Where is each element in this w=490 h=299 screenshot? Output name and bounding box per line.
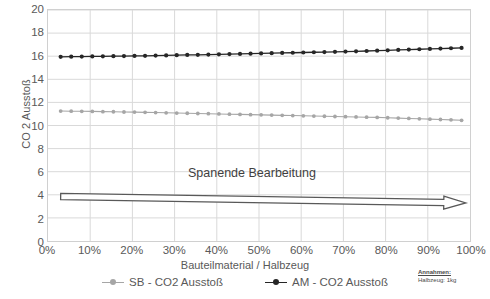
series-marker [90, 110, 94, 114]
series-marker [344, 115, 348, 119]
series-marker [417, 117, 421, 121]
co2-emissions-line-chart: CO 2 Ausstoß 02468101214161820 Spanende … [0, 0, 490, 299]
series-marker [428, 47, 432, 51]
series-marker [80, 109, 84, 113]
legend-label: AM - CO2 Ausstoß [292, 276, 388, 288]
x-tick-label: 30% [163, 244, 186, 256]
series-marker [69, 55, 73, 59]
y-tick-label: 12 [14, 96, 44, 108]
series-marker [438, 46, 442, 50]
series-marker [396, 116, 400, 120]
series-marker [154, 54, 158, 58]
series-sb [59, 109, 464, 122]
series-marker [59, 55, 63, 59]
series-marker [217, 52, 221, 56]
x-tick-label: 50% [247, 244, 270, 256]
series-marker [386, 116, 390, 120]
series-marker [111, 54, 115, 58]
y-tick-label: 16 [14, 50, 44, 62]
y-tick-label: 14 [14, 73, 44, 85]
series-marker [291, 114, 295, 118]
series-marker [301, 114, 305, 118]
series-marker [175, 111, 179, 115]
series-marker [375, 49, 379, 53]
series-marker [354, 49, 358, 53]
y-tick-label: 8 [14, 143, 44, 155]
y-tick-label: 6 [14, 166, 44, 178]
series-marker [386, 48, 390, 52]
series-marker [143, 110, 147, 114]
y-tick-label: 2 [14, 213, 44, 225]
series-marker [291, 51, 295, 55]
x-tick-label: 0% [39, 244, 56, 256]
series-marker [343, 49, 347, 53]
series-marker [154, 111, 158, 115]
legend-item-am[interactable]: AM - CO2 Ausstoß [265, 276, 388, 288]
y-tick-label: 18 [14, 26, 44, 38]
series-marker [365, 49, 369, 53]
series-marker [101, 54, 105, 58]
series-marker [196, 112, 200, 116]
series-marker [248, 52, 252, 56]
series-marker [439, 118, 443, 122]
series-marker [228, 112, 232, 116]
series-marker [396, 48, 400, 52]
series-marker [133, 110, 137, 114]
series-marker [322, 50, 326, 54]
series-marker [238, 113, 242, 117]
series-marker [280, 51, 284, 55]
x-tick-label: 60% [290, 244, 313, 256]
series-marker [217, 112, 221, 116]
series-marker [227, 52, 231, 56]
series-marker [122, 54, 126, 58]
plot-canvas [48, 10, 470, 241]
series-marker [270, 113, 274, 117]
series-marker [196, 53, 200, 57]
series-marker [112, 110, 116, 114]
legend-marker-icon [265, 277, 287, 287]
series-marker [460, 118, 464, 122]
series-marker [132, 54, 136, 58]
legend-item-sb[interactable]: SB - CO2 Ausstoß [102, 276, 223, 288]
series-marker [449, 118, 453, 122]
series-marker [206, 112, 210, 116]
x-tick-label: 80% [375, 244, 398, 256]
series-marker [428, 117, 432, 121]
x-tick-label: 40% [205, 244, 228, 256]
series-marker [249, 113, 253, 117]
series-marker [375, 116, 379, 120]
legend-label: SB - CO2 Ausstoß [129, 276, 223, 288]
y-axis-tick-labels: 02468101214161820 [14, 0, 44, 242]
series-marker [185, 111, 189, 115]
series-marker [90, 54, 94, 58]
series-marker [206, 52, 210, 56]
assumptions-note-title: Annahmen: [418, 268, 456, 276]
series-marker [122, 110, 126, 114]
series-marker [417, 47, 421, 51]
assumptions-note-body: Halbzeug: 1kg [418, 276, 456, 284]
x-tick-label: 10% [78, 244, 101, 256]
series-marker [354, 115, 358, 119]
series-marker [238, 52, 242, 56]
series-marker [407, 48, 411, 52]
series-marker [59, 109, 63, 113]
assumptions-note: Annahmen: Halbzeug: 1kg [418, 268, 456, 284]
series-marker [407, 117, 411, 121]
series-marker [164, 111, 168, 115]
series-marker [101, 110, 105, 114]
plot-area [47, 9, 471, 242]
y-tick-label: 20 [14, 3, 44, 15]
x-tick-label: 100% [456, 244, 485, 256]
legend-marker-icon [102, 277, 124, 287]
x-tick-label: 20% [120, 244, 143, 256]
x-tick-label: 70% [332, 244, 355, 256]
series-marker [301, 50, 305, 54]
annotation-label-spanende-bearbeitung: Spanende Bearbeitung [188, 166, 316, 180]
series-marker [164, 53, 168, 57]
series-am [59, 46, 464, 59]
series-marker [312, 50, 316, 54]
series-marker [270, 51, 274, 55]
chart-legend: SB - CO2 AusstoßAM - CO2 Ausstoß [0, 276, 490, 288]
series-marker [175, 53, 179, 57]
series-marker [280, 113, 284, 117]
